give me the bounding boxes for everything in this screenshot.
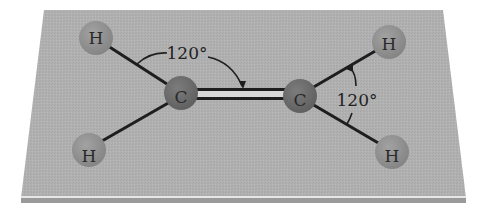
atom-label: H <box>385 146 400 166</box>
atom-h3: H <box>372 25 406 59</box>
atom-label: C <box>174 87 187 107</box>
plane-front-edge-highlight <box>21 196 466 198</box>
ethylene-diagram: H H C C H H 120° 120° <box>0 0 491 213</box>
atom-label: H <box>89 28 104 48</box>
atom-h4: H <box>375 135 409 169</box>
atom-h2: H <box>72 133 106 167</box>
angle-label-left: 120° <box>167 43 208 63</box>
atom-label: H <box>382 34 397 54</box>
atom-h1: H <box>79 21 113 55</box>
atom-label: H <box>82 146 97 166</box>
plane-front-edge <box>21 198 466 203</box>
double-bond-c1-c2 <box>194 88 290 100</box>
atom-c1: C <box>164 76 198 110</box>
atom-c2: C <box>283 79 317 113</box>
atom-label: C <box>293 90 306 110</box>
angle-label-right: 120° <box>337 90 378 110</box>
